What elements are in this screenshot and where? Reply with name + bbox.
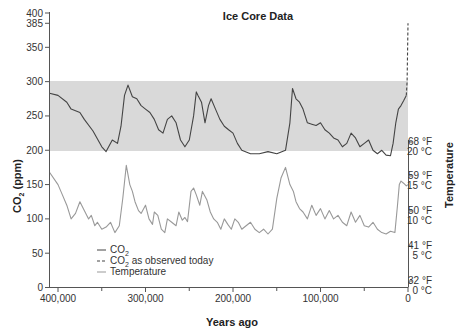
ice-core-chart: 050100150200250300350385400 400,000300,0…: [0, 0, 456, 335]
x-ticks: 400,000300,000200,000100,0000: [40, 288, 411, 305]
y-tick-label: 50: [32, 248, 44, 259]
x-tick-label: 400,000: [40, 293, 77, 304]
temp-tick-c: 20 °C: [407, 146, 432, 157]
y-tick-label: 100: [26, 213, 43, 224]
chart-title: Ice Core Data: [223, 10, 294, 22]
x-tick-label: 0: [405, 293, 411, 304]
y-tick-label: 200: [26, 145, 43, 156]
x-tick-label: 300,000: [127, 293, 164, 304]
legend: CO2 CO2 as observed today Temperature: [97, 244, 213, 277]
shaded-band: [50, 81, 408, 151]
y-axis-title: CO2 (ppm): [11, 159, 25, 213]
y-tick-label: 150: [26, 179, 43, 190]
temperature-line: [50, 165, 409, 234]
x-axis-title: Years ago: [206, 316, 258, 328]
temp-tick-c: 5 °C: [412, 250, 432, 261]
right-axis-title: Temperature: [443, 142, 455, 208]
right-ticks: 32 °F0 °C41 °F5 °C50 °F10 °C59 °F15 °C68…: [407, 136, 432, 296]
y-tick-label: 300: [26, 76, 43, 87]
x-tick-label: 100,000: [302, 293, 339, 304]
temp-tick-c: 10 °C: [407, 215, 432, 226]
y-tick-label: 350: [26, 42, 43, 53]
y-tick-label: 385: [26, 18, 43, 29]
legend-temperature: Temperature: [110, 266, 167, 277]
y-tick-label: 400: [26, 8, 43, 19]
temp-tick-c: 0 °C: [412, 285, 432, 296]
y-tick-label: 0: [37, 282, 43, 293]
temp-tick-c: 15 °C: [407, 180, 432, 191]
left-ticks: 050100150200250300350385400: [26, 8, 49, 294]
temperature-path: [50, 165, 409, 234]
x-tick-label: 200,000: [215, 293, 252, 304]
y-tick-label: 250: [26, 110, 43, 121]
